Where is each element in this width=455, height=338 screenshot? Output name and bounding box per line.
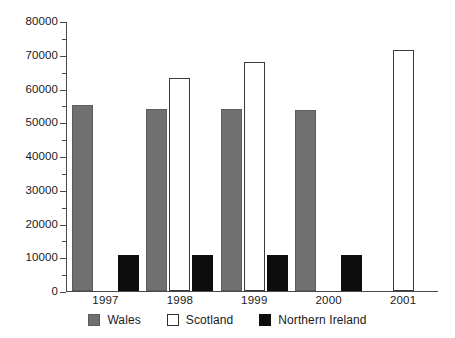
y-axis-tick-labels: 0100002000030000400005000060000700008000… (0, 22, 58, 292)
y-axis-major-tick (60, 225, 66, 226)
y-axis-major-tick (60, 292, 66, 293)
bar-northern-ireland-2000 (341, 255, 362, 291)
y-axis-minor-tick (62, 275, 66, 276)
y-axis-minor-tick (62, 174, 66, 175)
y-axis-major-tick (60, 191, 66, 192)
y-axis-tick-label: 10000 (26, 251, 58, 263)
y-axis-tick-label: 20000 (26, 218, 58, 230)
y-axis-minor-tick (62, 208, 66, 209)
bar-wales-2000 (295, 110, 316, 291)
y-axis-tick-label: 50000 (26, 116, 58, 128)
legend-swatch-icon (259, 314, 271, 326)
legend-entry-northern-ireland: Northern Ireland (259, 313, 366, 327)
y-axis-major-tick (60, 258, 66, 259)
x-axis-tick-label-1999: 1999 (213, 294, 296, 306)
y-axis-major-tick (60, 56, 66, 57)
y-axis-major-tick (60, 22, 66, 23)
bar-scotland-1998 (169, 78, 190, 291)
bar-northern-ireland-1999 (267, 255, 288, 291)
plot-area (66, 22, 438, 292)
y-axis-major-tick (60, 123, 66, 124)
x-axis-tick-label-2000: 2000 (287, 294, 370, 306)
chart-legend: WalesScotlandNorthern Ireland (0, 313, 455, 327)
y-axis-major-tick (60, 90, 66, 91)
y-axis-tick-label: 30000 (26, 184, 58, 196)
y-axis-minor-tick (62, 140, 66, 141)
bar-scotland-2001 (393, 50, 414, 291)
bar-chart: 0100002000030000400005000060000700008000… (0, 0, 455, 338)
x-axis-tick-labels: 19971998199920002001 (66, 294, 438, 312)
legend-swatch-icon (167, 314, 179, 326)
bar-wales-1999 (221, 109, 242, 291)
bar-wales-1997 (72, 105, 93, 291)
x-axis-line (66, 291, 438, 292)
y-axis-major-tick (60, 157, 66, 158)
legend-label: Northern Ireland (278, 313, 366, 327)
bar-wales-1998 (146, 109, 167, 291)
legend-swatch-icon (88, 314, 100, 326)
x-axis-tick-label-1998: 1998 (138, 294, 221, 306)
y-axis-minor-tick (62, 39, 66, 40)
y-axis-tick-label: 80000 (26, 15, 58, 27)
legend-entry-wales: Wales (88, 313, 140, 327)
bar-northern-ireland-1997 (118, 255, 139, 291)
y-axis-minor-tick (62, 73, 66, 74)
y-axis-minor-tick (62, 241, 66, 242)
x-axis-tick-label-1997: 1997 (64, 294, 147, 306)
y-axis-tick-label: 40000 (26, 150, 58, 162)
bar-northern-ireland-1998 (192, 255, 213, 291)
legend-label: Wales (107, 313, 140, 327)
y-axis-tick-label: 70000 (26, 49, 58, 61)
y-axis-tick-label: 0 (52, 285, 59, 297)
x-axis-tick-label-2001: 2001 (362, 294, 445, 306)
y-axis-tick-label: 60000 (26, 83, 58, 95)
bar-scotland-1999 (244, 62, 265, 292)
y-axis-line (66, 22, 67, 292)
legend-entry-scotland: Scotland (167, 313, 234, 327)
legend-label: Scotland (186, 313, 234, 327)
y-axis-minor-tick (62, 106, 66, 107)
